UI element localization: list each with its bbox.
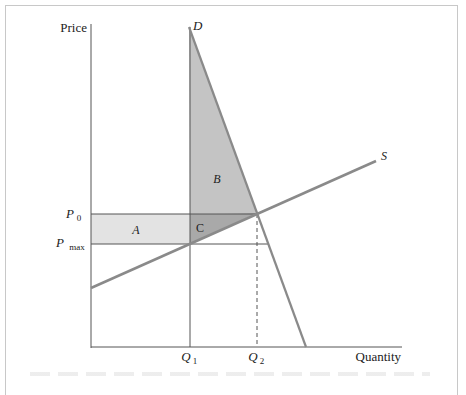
q1-subscript: 1 [193,356,198,366]
pmax-label: P [55,235,64,250]
demand-label: D [192,18,203,33]
q2-label: Q [248,349,258,364]
region-a-label: A [131,223,140,237]
region-b-label: B [213,172,221,186]
bleed-through-text [30,372,430,376]
q2-subscript: 2 [260,356,265,366]
supply-label: S [381,149,387,163]
region-a [91,214,190,244]
p0-label: P [65,206,74,221]
p0-subscript: 0 [77,213,82,223]
y-axis-label: Price [60,20,87,35]
x-axis-label: Quantity [356,349,402,364]
q1-label: Q [181,349,191,364]
region-c-label: C [196,221,204,235]
pmax-subscript: max [69,242,85,252]
